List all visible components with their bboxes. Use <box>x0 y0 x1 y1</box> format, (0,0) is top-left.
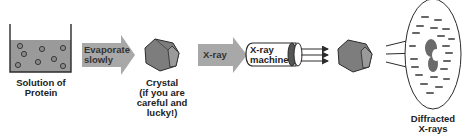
beaker-icon <box>10 24 71 72</box>
solution-of-protein-label: Solution of Protein <box>5 78 77 98</box>
hexagonal-crystal-icon <box>338 40 372 72</box>
diffracted-xrays-label: Diffracted X-rays <box>400 114 466 134</box>
evaporate-arrow-label: Evaporate slowly <box>84 45 130 65</box>
hexagonal-crystal-icon <box>145 39 179 71</box>
xray-arrow-label: X-ray <box>203 50 227 60</box>
xray-machine-label: X-ray machine <box>250 45 289 65</box>
diffraction-pattern-plate-icon <box>405 0 461 109</box>
xray-beam-arrows <box>301 49 328 61</box>
crystal-label: Crystal (if you are careful and lucky!) <box>128 78 196 118</box>
crystallography-diagram: Evaporate slowly X-ray X-ray machine Sol… <box>0 0 468 137</box>
